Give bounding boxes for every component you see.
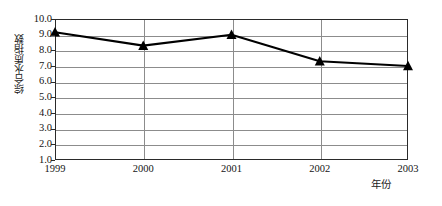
vertical-gridline (321, 20, 322, 159)
grid-layer (56, 20, 407, 159)
y-tick-label: 8.0 (26, 45, 52, 56)
x-tick-label: 2000 (133, 163, 154, 175)
y-tick-label: 7.0 (26, 61, 52, 72)
horizontal-gridline (56, 130, 407, 131)
horizontal-gridline (56, 36, 407, 37)
horizontal-gridline (56, 51, 407, 52)
y-tick-mark (51, 113, 55, 114)
y-tick-label: 6.0 (26, 76, 52, 87)
x-axis-tick-labels: 19992000200120022003 (0, 163, 442, 179)
y-tick-label: 10.0 (26, 14, 52, 25)
y-tick-label: 2.0 (26, 139, 52, 150)
horizontal-gridline (56, 114, 407, 115)
x-tick-label: 2001 (221, 163, 242, 175)
y-tick-mark (51, 50, 55, 51)
y-tick-mark (51, 19, 55, 20)
y-tick-mark (51, 82, 55, 83)
horizontal-gridline (56, 67, 407, 68)
y-tick-mark (51, 66, 55, 67)
x-tick-label: 2003 (398, 163, 419, 175)
horizontal-gridline (56, 98, 407, 99)
x-tick-label: 1999 (45, 163, 66, 175)
y-tick-mark (51, 129, 55, 130)
horizontal-gridline (56, 145, 407, 146)
horizontal-gridline (56, 83, 407, 84)
y-tick-label: 4.0 (26, 108, 52, 119)
vertical-gridline (144, 20, 145, 159)
y-tick-label: 3.0 (26, 123, 52, 134)
y-tick-mark (51, 160, 55, 161)
plot-area (55, 19, 408, 160)
chart-figure: 综合水质指数 10.09.08.07.06.05.04.03.02.01.0 1… (0, 0, 442, 206)
y-tick-mark (51, 35, 55, 36)
x-tick-label: 2002 (309, 163, 330, 175)
vertical-gridline (233, 20, 234, 159)
y-tick-label: 5.0 (26, 92, 52, 103)
y-tick-mark (51, 144, 55, 145)
y-tick-mark (51, 97, 55, 98)
x-axis-title: 年份 (371, 178, 391, 190)
y-tick-label: 9.0 (26, 29, 52, 40)
